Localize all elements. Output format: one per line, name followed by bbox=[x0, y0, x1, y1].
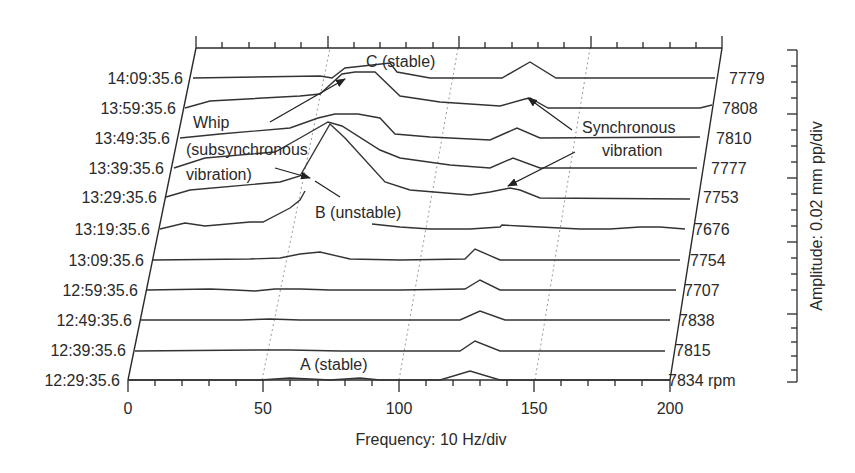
amplitude-scale bbox=[787, 50, 797, 382]
annotation-arrows bbox=[270, 79, 575, 197]
x-tick-labels: 0 50 100 150 200 bbox=[124, 400, 684, 417]
spectrum-traces bbox=[128, 62, 715, 380]
time-label: 13:19:35.6 bbox=[74, 221, 150, 238]
b-leader bbox=[315, 181, 340, 197]
rpm-label: 7707 bbox=[684, 282, 720, 299]
svg-text:100: 100 bbox=[386, 400, 413, 417]
top-ticks bbox=[196, 36, 722, 48]
left-slant-axis bbox=[128, 48, 196, 380]
trace-1249 bbox=[141, 311, 670, 320]
rpm-label: 7808 bbox=[722, 100, 758, 117]
annotation-whip-2: (subsynchronous bbox=[186, 141, 308, 158]
chart-svg: 14:09:35.6 13:59:35.6 13:49:35.6 13:39:3… bbox=[0, 0, 855, 473]
time-label: 13:29:35.6 bbox=[81, 189, 157, 206]
time-label: 12:59:35.6 bbox=[62, 282, 138, 299]
trace-1409 bbox=[193, 62, 715, 78]
rpm-label: 7779 bbox=[729, 70, 765, 87]
rpm-label: 7834 rpm bbox=[668, 372, 736, 389]
time-label: 13:39:35.6 bbox=[88, 160, 164, 177]
trace-1319-right bbox=[372, 224, 685, 229]
svg-text:150: 150 bbox=[521, 400, 548, 417]
rpm-label: 7676 bbox=[694, 221, 730, 238]
trace-1239 bbox=[135, 341, 665, 351]
svg-text:0: 0 bbox=[124, 400, 133, 417]
annotation-b: B (unstable) bbox=[315, 204, 401, 221]
rpm-label: 7777 bbox=[711, 160, 747, 177]
sync-arrow-down bbox=[508, 152, 575, 186]
annotation-sync-1: Synchronous bbox=[582, 119, 675, 136]
annotation-c: C (stable) bbox=[366, 53, 435, 70]
trace-1319 bbox=[160, 191, 305, 229]
time-label: 12:39:35.6 bbox=[50, 342, 126, 359]
annotation-whip-1: Whip bbox=[193, 114, 230, 131]
svg-text:200: 200 bbox=[657, 400, 684, 417]
time-label: 12:29:35.6 bbox=[44, 372, 120, 389]
time-label: 13:09:35.6 bbox=[68, 252, 144, 269]
annotation-a: A (stable) bbox=[300, 356, 368, 373]
sync-arrow-up bbox=[528, 98, 572, 130]
rpm-label: 7815 bbox=[675, 342, 711, 359]
trace-1309 bbox=[153, 249, 680, 260]
right-slant-axis bbox=[670, 48, 722, 380]
annotation-sync-2: vibration bbox=[602, 142, 662, 159]
x-ticks bbox=[128, 380, 670, 392]
rpm-label: 7754 bbox=[690, 252, 726, 269]
whip-arrow-up bbox=[270, 79, 345, 122]
time-labels: 14:09:35.6 13:59:35.6 13:49:35.6 13:39:3… bbox=[44, 70, 183, 389]
svg-text:50: 50 bbox=[254, 400, 272, 417]
rpm-label: 7753 bbox=[703, 189, 739, 206]
time-label: 12:49:35.6 bbox=[56, 312, 132, 329]
time-label: 13:49:35.6 bbox=[94, 130, 170, 147]
waterfall-chart: 14:09:35.6 13:59:35.6 13:49:35.6 13:39:3… bbox=[0, 0, 855, 473]
time-label: 14:09:35.6 bbox=[107, 70, 183, 87]
rpm-label: 7838 bbox=[679, 312, 715, 329]
trace-1259 bbox=[147, 280, 676, 291]
x-axis-label: Frequency: 10 Hz/div bbox=[355, 431, 506, 448]
rpm-label: 7810 bbox=[716, 130, 752, 147]
annotation-whip-3: vibration) bbox=[186, 166, 252, 183]
axes-frame bbox=[128, 48, 722, 380]
y-axis-label: Amplitude: 0.02 mm pp/div bbox=[808, 121, 825, 310]
time-label: 13:59:35.6 bbox=[100, 100, 176, 117]
